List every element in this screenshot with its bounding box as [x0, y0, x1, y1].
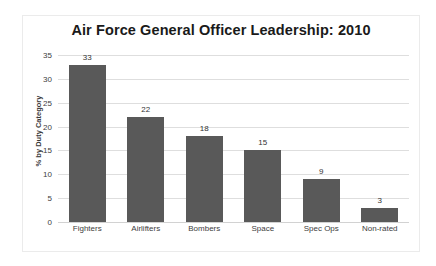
bar-value-label: 22: [127, 105, 164, 114]
bar-slot: 22: [117, 55, 176, 222]
x-axis-category-label: Space: [234, 224, 293, 233]
y-axis-tick-label: 5: [48, 194, 52, 203]
chart-container: Air Force General Officer Leadership: 20…: [22, 15, 420, 252]
bar: 22: [127, 117, 164, 222]
x-axis-category-label: Fighters: [58, 224, 117, 233]
bar-value-label: 18: [186, 124, 223, 133]
bar: 18: [186, 136, 223, 222]
x-axis-category-labels: FightersAirliftersBombersSpaceSpec OpsNo…: [58, 224, 409, 233]
bar-series: 3322181593: [58, 55, 409, 222]
bar-value-label: 15: [244, 138, 281, 147]
y-axis-tick-label: 10: [43, 170, 52, 179]
y-axis-tick-label: 15: [43, 146, 52, 155]
x-axis-category-label: Bombers: [175, 224, 234, 233]
bar-slot: 3: [351, 55, 410, 222]
bar-value-label: 9: [303, 167, 340, 176]
bar-slot: 15: [234, 55, 293, 222]
x-axis-category-label: Non-rated: [351, 224, 410, 233]
y-axis-tick-label: 35: [43, 51, 52, 60]
gridline: 0: [58, 222, 409, 223]
bar: 15: [244, 150, 281, 222]
bar-value-label: 3: [361, 196, 398, 205]
bar-slot: 33: [58, 55, 117, 222]
x-axis-category-label: Airlifters: [117, 224, 176, 233]
y-axis-tick-label: 20: [43, 122, 52, 131]
bar-value-label: 33: [69, 53, 106, 62]
bar: 3: [361, 208, 398, 222]
bar-slot: 9: [292, 55, 351, 222]
bar: 9: [303, 179, 340, 222]
y-axis-tick-label: 0: [48, 218, 52, 227]
y-axis-tick-label: 25: [43, 98, 52, 107]
chart-title: Air Force General Officer Leadership: 20…: [23, 22, 419, 38]
x-axis-category-label: Spec Ops: [292, 224, 351, 233]
bar-slot: 18: [175, 55, 234, 222]
plot-area: 35302520151050 3322181593: [58, 55, 409, 222]
bar: 33: [69, 65, 106, 222]
y-axis-tick-label: 30: [43, 74, 52, 83]
